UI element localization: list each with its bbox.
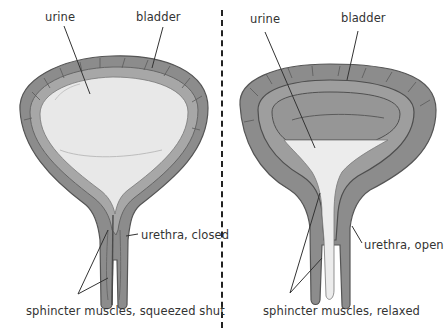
bladder-emptying-open <box>240 31 436 309</box>
label-urine-left: urine <box>45 10 75 24</box>
label-bladder-right: bladder <box>341 11 386 25</box>
label-sphincter-relaxed: sphincter muscles, relaxed <box>263 304 420 318</box>
label-urethra-open: urethra, open <box>364 238 444 252</box>
panel-divider <box>221 10 223 328</box>
label-urethra-closed: urethra, closed <box>141 228 229 242</box>
bladder-illustrations <box>0 0 446 328</box>
label-bladder-left: bladder <box>136 10 181 24</box>
label-sphincter-squeezed: sphincter muscles, squeezed shut <box>26 304 225 318</box>
label-urine-right: urine <box>250 12 280 26</box>
bladder-full-closed <box>20 26 208 309</box>
bladder-diagram: urine bladder urethra, closed sphincter … <box>0 0 446 328</box>
